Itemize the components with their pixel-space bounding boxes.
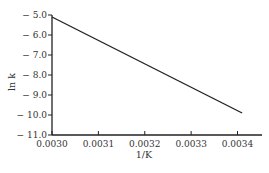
x-tick-label: 0.0033 — [175, 139, 207, 149]
y-tick-label: − 9.0 — [22, 90, 47, 100]
y-axis-label: ln k — [6, 73, 17, 91]
x-tick-label: 0.0031 — [83, 139, 115, 149]
x-axis-label: 1/K — [136, 149, 153, 160]
x-tick-label: 0.0034 — [222, 139, 254, 149]
y-axis-ticks: − 5.0− 6.0− 7.0− 8.0− 9.0− 10.0− 11.0 — [17, 10, 52, 140]
data-line — [52, 17, 242, 113]
x-tick-label: 0.0030 — [36, 139, 68, 149]
y-tick-label: − 5.0 — [22, 10, 47, 20]
chart: − 5.0− 6.0− 7.0− 8.0− 9.0− 10.0− 11.0 0.… — [0, 0, 269, 173]
y-tick-label: − 10.0 — [17, 110, 48, 120]
x-axis-ticks: 0.00300.00310.00320.00330.0034 — [36, 131, 253, 149]
y-tick-label: − 7.0 — [22, 50, 47, 60]
y-tick-label: − 8.0 — [22, 70, 47, 80]
x-tick-label: 0.0032 — [129, 139, 161, 149]
y-tick-label: − 6.0 — [22, 30, 47, 40]
